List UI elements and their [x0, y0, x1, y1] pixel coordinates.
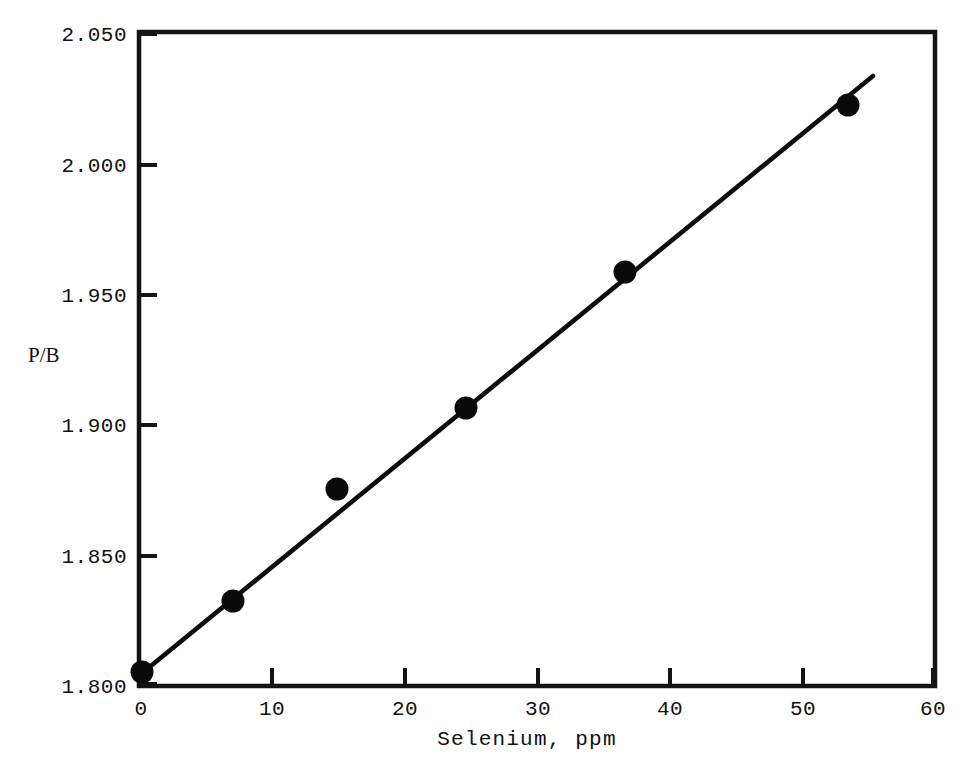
y-tick-label-2050: 2.050: [61, 24, 127, 47]
data-point: [837, 94, 860, 117]
x-axis-title: Selenium, ppm: [437, 728, 616, 751]
y-tick-label-1900: 1.900: [61, 415, 127, 438]
x-tick-label-0: 0: [134, 698, 147, 721]
x-tick-label-60: 60: [920, 698, 946, 721]
plot-frame: [139, 32, 935, 686]
y-tick-label-1800: 1.800: [61, 676, 127, 699]
x-axis-ticks: [141, 668, 933, 686]
y-tick-label-1950: 1.950: [61, 285, 127, 308]
data-point: [222, 590, 245, 613]
y-axis-ticks: [139, 34, 157, 684]
x-tick-label-30: 30: [525, 698, 551, 721]
data-points: [131, 94, 860, 684]
x-tick-label-10: 10: [259, 698, 285, 721]
regression-line: [141, 76, 873, 674]
y-tick-label-1850: 1.850: [61, 546, 127, 569]
y-axis-title: P/B: [28, 343, 60, 367]
data-point: [326, 478, 349, 501]
x-tick-label-50: 50: [790, 698, 816, 721]
x-axis-tick-labels: 0 10 20 30 40 50 60: [134, 698, 946, 721]
data-point: [131, 661, 154, 684]
x-tick-label-20: 20: [392, 698, 418, 721]
data-point: [614, 261, 637, 284]
scatter-plot: 2.050 2.000 1.950 1.900 1.850 1.800 0 10…: [0, 0, 971, 766]
y-axis-tick-labels: 2.050 2.000 1.950 1.900 1.850 1.800: [61, 24, 127, 699]
figure-container: 2.050 2.000 1.950 1.900 1.850 1.800 0 10…: [0, 0, 971, 766]
y-tick-label-2000: 2.000: [61, 155, 127, 178]
x-tick-label-40: 40: [657, 698, 683, 721]
data-point: [455, 397, 478, 420]
